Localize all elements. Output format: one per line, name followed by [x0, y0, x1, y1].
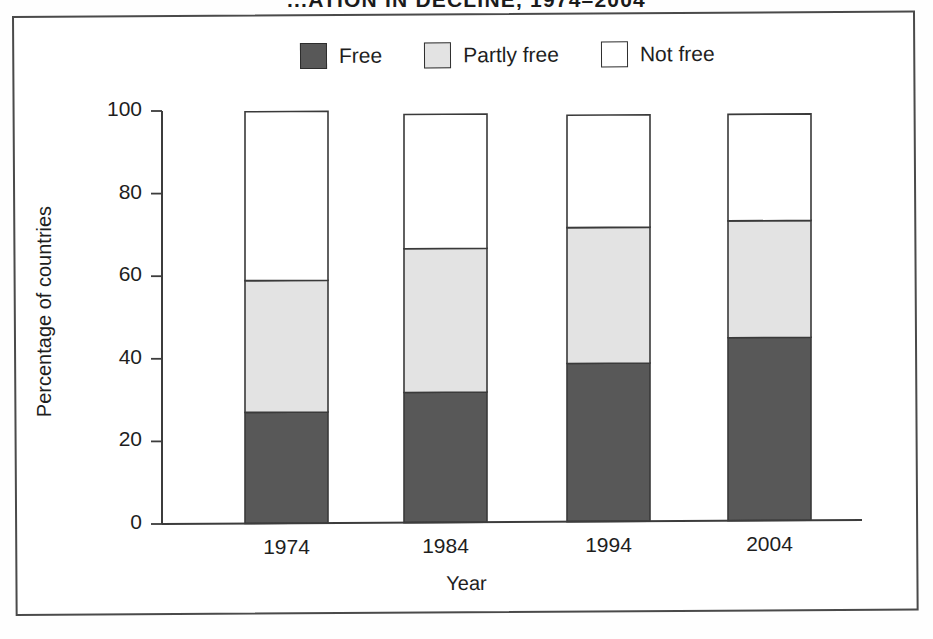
y-tick-label-80: 80: [72, 180, 142, 204]
x-tick-label-1974: 1974: [227, 535, 347, 559]
bar-segment-1984-partly-free: [404, 248, 487, 392]
y-tick-label-40: 40: [72, 345, 142, 369]
bars-layer: [245, 111, 811, 523]
bar-segment-2004-not-free: [728, 114, 811, 221]
x-axis-title: Year: [0, 570, 933, 598]
bar-segment-2004-free: [728, 337, 811, 520]
bar-segment-1994-not-free: [567, 115, 650, 228]
bar-segment-1994-partly-free: [567, 227, 650, 363]
bar-segment-2004-partly-free: [728, 220, 811, 337]
y-tick-label-20: 20: [72, 427, 142, 451]
bar-segment-1994-free: [567, 363, 650, 522]
x-tick-label-2004: 2004: [710, 532, 830, 556]
x-tick-label-1994: 1994: [549, 533, 669, 557]
scanned-figure-page: ...ATION IN DECLINE, 1974–2004 Free Part…: [0, 0, 933, 639]
bar-segment-1974-partly-free: [245, 280, 328, 412]
bar-segment-1984-free: [404, 392, 487, 523]
y-axis-title: Percentage of countries: [33, 182, 56, 442]
bar-segment-1974-free: [245, 412, 328, 524]
x-tick-label-1984: 1984: [386, 534, 506, 558]
y-tick-label-0: 0: [72, 510, 142, 534]
y-tick-label-100: 100: [72, 97, 142, 121]
bar-segment-1984-not-free: [404, 114, 487, 249]
bar-segment-1974-not-free: [245, 111, 328, 280]
y-tick-label-60: 60: [72, 262, 142, 286]
chart-plot-area: Percentage of countries Year 02040608010…: [0, 0, 933, 639]
